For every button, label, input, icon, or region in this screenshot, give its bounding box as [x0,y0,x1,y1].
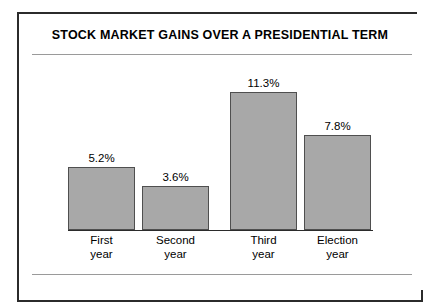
bar-category-label-election-year: Election year [292,234,383,261]
bar-value-label: 7.8% [296,120,379,132]
category-label-line2: year [130,248,221,262]
bar-value-label: 11.3% [222,77,305,89]
x-axis-baseline [68,230,373,231]
bar-group-third-year: 11.3% Third year [230,70,297,230]
chart-figure-frame: STOCK MARKET GAINS OVER A PRESIDENTIAL T… [17,12,423,302]
footer-divider-bottom [32,274,412,275]
bar-election-year[interactable] [304,135,371,230]
page-margin-right [417,0,434,290]
bar-second-year[interactable] [142,186,209,230]
bar-category-label-second-year: Second year [130,234,221,261]
bar-group-election-year: 7.8% Election year [304,70,371,230]
bar-group-second-year: 3.6% Second year [142,70,209,230]
category-label-line2: year [292,248,383,262]
bar-chart-plot-area: 5.2% First year 3.6% Second year 11.3% T… [19,14,425,304]
category-label-line1: Election [292,234,383,248]
bar-third-year[interactable] [230,92,297,230]
page-margin-left [0,0,17,290]
category-label-line1: Second [130,234,221,248]
bar-group-first-year: 5.2% First year [68,70,135,230]
bar-first-year[interactable] [68,167,135,230]
bar-value-label: 3.6% [134,171,217,183]
bar-value-label: 5.2% [60,152,143,164]
